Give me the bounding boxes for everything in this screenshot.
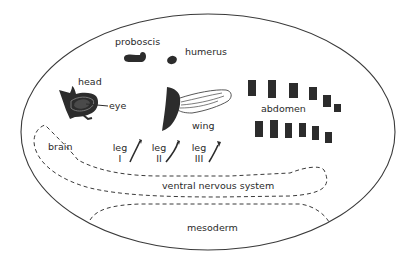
abdomen-nest: [268, 80, 276, 98]
abdomen-nest: [270, 120, 278, 138]
abdomen-nest: [312, 126, 319, 140]
label-head: head: [78, 77, 102, 87]
abdomen-bottom-row: [255, 120, 332, 143]
abdomen-nest: [325, 132, 332, 143]
abdomen-nest: [289, 83, 298, 98]
label-leg-2-word: leg: [150, 143, 168, 153]
abdomen-nest: [285, 123, 292, 138]
proboscis-disc: [124, 52, 146, 62]
label-proboscis: proboscis: [115, 37, 160, 47]
label-leg-1-word: leg: [111, 143, 129, 153]
label-wing: wing: [192, 121, 214, 131]
label-leg-2: leg II: [150, 143, 168, 163]
leg-1-disc: [130, 141, 140, 162]
abdomen-nest: [323, 95, 331, 107]
label-abdomen: abdomen: [261, 104, 306, 114]
mesoderm-dashed-outline: [90, 204, 329, 222]
label-brain: brain: [48, 142, 72, 152]
label-leg-3-num: III: [190, 154, 208, 164]
abdomen-nest: [334, 104, 341, 112]
label-leg-1: leg I: [111, 143, 129, 163]
abdomen-nest: [248, 80, 256, 96]
humerus-disc: [166, 55, 178, 66]
abdomen-nest: [299, 123, 306, 137]
abdomen-nest: [255, 121, 263, 137]
label-ventral-nervous-system: ventral nervous system: [162, 181, 274, 191]
embryo-diagram: proboscis humerus head eye wing abdomen …: [0, 0, 414, 266]
label-leg-2-num: II: [150, 154, 168, 164]
abdomen-nest: [309, 87, 317, 100]
label-humerus: humerus: [185, 47, 227, 57]
label-leg-3-word: leg: [190, 143, 208, 153]
label-mesoderm: mesoderm: [187, 223, 238, 233]
label-leg-1-num: I: [111, 154, 129, 164]
leg-3-disc: [209, 145, 218, 162]
label-eye: eye: [109, 101, 126, 111]
label-leg-3: leg III: [190, 143, 208, 163]
head-eye-disc: [59, 86, 98, 119]
